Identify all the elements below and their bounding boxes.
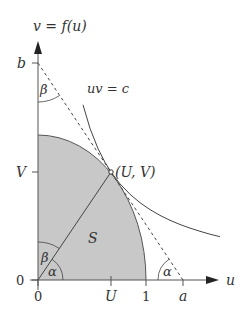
tick-label-b: b xyxy=(17,55,26,71)
shaded-region-s xyxy=(38,135,146,280)
vertical-axis-arrow-icon xyxy=(34,41,42,54)
horizontal-axis-label: u xyxy=(226,272,235,288)
tick-label-origin-u: 0 xyxy=(34,289,42,304)
hyperbola-label: uv = c xyxy=(87,81,130,96)
vertical-axis-label: v = f(u) xyxy=(33,18,87,34)
tick-label-v: V xyxy=(16,164,28,180)
angle-label-beta-top: β xyxy=(39,82,48,97)
point-uv-label: (U, V) xyxy=(115,164,155,180)
tick-label-origin-v: 0 xyxy=(16,273,24,288)
region-s-label: S xyxy=(88,230,98,246)
point-uv-marker xyxy=(109,170,113,174)
angle-label-alpha-origin: α xyxy=(48,264,57,279)
tick-label-u: U xyxy=(105,288,118,304)
diagram-canvas: v = f(u) u b V 0 0 U 1 a uv = c (U, V) S… xyxy=(0,0,244,320)
angle-label-alpha-right: α xyxy=(163,264,172,279)
horizontal-axis-arrow-icon xyxy=(206,276,219,284)
angle-label-beta-origin: β xyxy=(40,250,49,265)
tick-label-1: 1 xyxy=(142,289,150,304)
tick-label-a: a xyxy=(179,288,187,304)
